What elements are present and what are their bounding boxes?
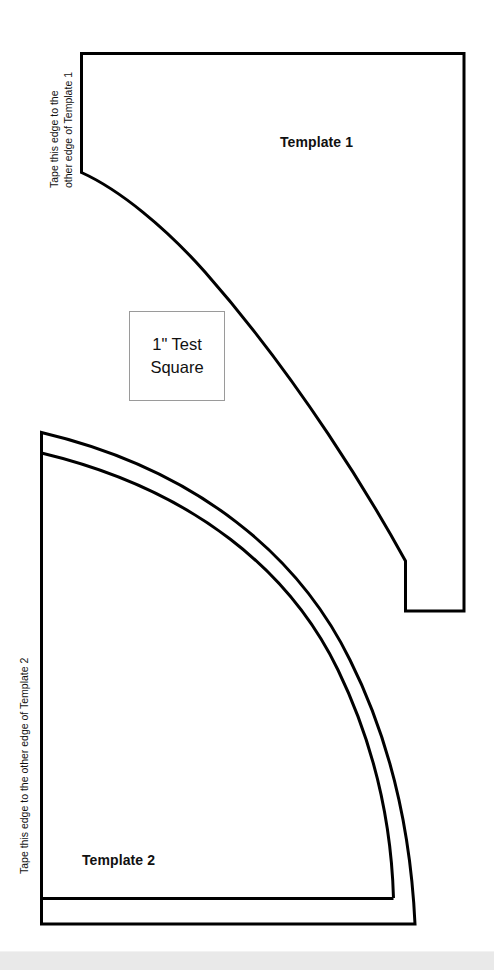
template2-tape-instruction: Tape this edge to the other edge of Temp… (18, 594, 32, 874)
page-bottom-strip (0, 951, 494, 970)
template1-tape-instruction-line1: Tape this edge to the (48, 48, 62, 188)
template1-tape-instruction-line2: other edge of Template 1 (62, 48, 76, 188)
template2-outer-outline (42, 433, 416, 925)
template1-tape-instruction: Tape this edge to the other edge of Temp… (48, 48, 75, 188)
template1-label: Template 1 (280, 134, 353, 150)
template2-label: Template 2 (82, 852, 155, 868)
test-square: 1" Test Square (129, 311, 225, 401)
test-square-line1: 1" Test (152, 333, 202, 356)
test-square-line2: Square (150, 356, 203, 379)
